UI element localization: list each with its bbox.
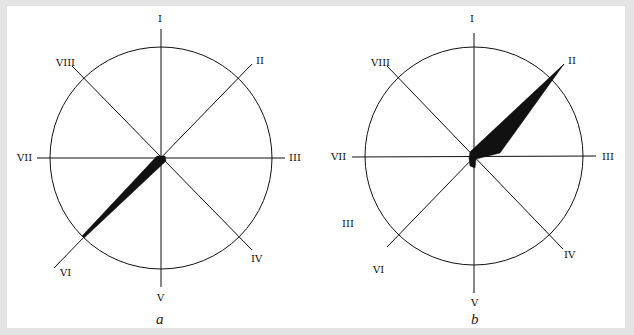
- diagram-a-label-V: V: [156, 292, 165, 303]
- diagram-b-hand: [469, 64, 564, 168]
- diagram-a-label-II: II: [256, 55, 264, 66]
- clock-diagrams: I II III IV V VI VII VIII a I II III IV …: [0, 0, 634, 335]
- diagram-a-label-VI: VI: [59, 267, 71, 278]
- diagram-a-label-VII: VII: [16, 152, 32, 163]
- diagram-a-caption: a: [156, 311, 164, 327]
- diagram-b-label-VIII: VIII: [370, 57, 390, 68]
- diagram-b-caption: b: [471, 311, 479, 327]
- diagram-a-label-III: III: [289, 152, 301, 163]
- diagram-a-label-I: I: [158, 13, 162, 24]
- diagram-b-label-VI: VI: [372, 264, 384, 275]
- diagram-b-label-III: III: [602, 151, 614, 162]
- diagram-a-label-IV: IV: [251, 253, 263, 264]
- diagram-b-label-extra-III: III: [342, 218, 354, 229]
- diagram-a-hand: [82, 156, 166, 238]
- diagram-a-label-VIII: VIII: [55, 57, 75, 68]
- diagram-b-label-VII: VII: [330, 151, 346, 162]
- diagram-b-label-II: II: [568, 55, 576, 66]
- diagram-b-label-I: I: [470, 13, 474, 24]
- diagram-b-label-V: V: [470, 297, 479, 308]
- diagram-b-label-IV: IV: [564, 249, 576, 260]
